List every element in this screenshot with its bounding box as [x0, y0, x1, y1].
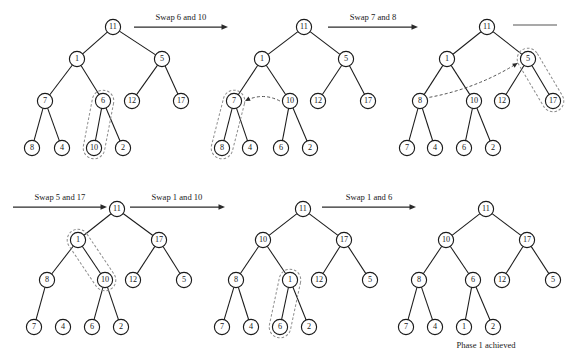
- node-label: 1: [75, 54, 79, 63]
- tree-node-6[interactable]: 6: [456, 140, 471, 155]
- tree-node-12[interactable]: 12: [494, 272, 509, 287]
- tree-edge: [477, 108, 490, 141]
- node-label: 8: [30, 143, 34, 152]
- tree-edge: [136, 65, 157, 95]
- tree-node-6[interactable]: 6: [465, 272, 480, 287]
- node-label: 4: [60, 143, 64, 152]
- tree-node-10[interactable]: 10: [282, 93, 297, 108]
- node-label: 1: [76, 235, 80, 244]
- node-label: 10: [90, 143, 98, 152]
- tree-edge: [506, 65, 524, 94]
- node-label: 12: [498, 275, 506, 284]
- node-label: 7: [220, 322, 224, 331]
- tree-node-11[interactable]: 11: [109, 201, 124, 216]
- tree-node-8[interactable]: 8: [39, 272, 54, 287]
- tree-node-8[interactable]: 8: [214, 140, 229, 155]
- tree-node-5[interactable]: 5: [176, 272, 191, 287]
- tree-node-4[interactable]: 4: [54, 140, 69, 155]
- tree-node-1[interactable]: 1: [282, 272, 297, 287]
- tree-node-7[interactable]: 7: [26, 319, 41, 334]
- tree-node-2[interactable]: 2: [301, 319, 316, 334]
- tree-node-8[interactable]: 8: [228, 272, 243, 287]
- tree-node-10[interactable]: 10: [97, 272, 112, 287]
- tree-node-17[interactable]: 17: [151, 232, 166, 247]
- tree-node-7[interactable]: 7: [398, 319, 413, 334]
- tree-edge: [137, 246, 155, 273]
- tree-node-1[interactable]: 1: [439, 51, 454, 66]
- node-label: 12: [315, 275, 323, 284]
- tree-node-12[interactable]: 12: [311, 272, 326, 287]
- tree-node-17[interactable]: 17: [360, 93, 375, 108]
- tree-node-8[interactable]: 8: [24, 140, 39, 155]
- tree-edge: [422, 108, 432, 141]
- tree-node-17[interactable]: 17: [519, 232, 534, 247]
- tree-node-10[interactable]: 10: [466, 93, 481, 108]
- node-label: 10: [286, 96, 294, 105]
- tree-edge: [94, 287, 103, 319]
- tree-node-4[interactable]: 4: [55, 319, 70, 334]
- tree-node-5[interactable]: 5: [545, 272, 560, 287]
- node-label: 12: [498, 96, 506, 105]
- tree-node-7[interactable]: 7: [399, 140, 414, 155]
- node-label: 7: [405, 143, 409, 152]
- tree-node-8[interactable]: 8: [412, 93, 427, 108]
- tree-node-4[interactable]: 4: [243, 319, 258, 334]
- tree-edge: [409, 108, 418, 140]
- tree-node-1[interactable]: 1: [456, 319, 471, 334]
- tree-node-1[interactable]: 1: [70, 232, 85, 247]
- tree-node-17[interactable]: 17: [173, 93, 188, 108]
- node-label: 4: [61, 322, 65, 331]
- tree-node-10[interactable]: 10: [86, 140, 101, 155]
- tree-node-2[interactable]: 2: [485, 140, 500, 155]
- tree-node-12[interactable]: 12: [125, 272, 140, 287]
- node-label: 1: [462, 322, 466, 331]
- tree-node-4[interactable]: 4: [427, 319, 442, 334]
- tree-node-11[interactable]: 11: [296, 19, 311, 34]
- tree-node-11[interactable]: 11: [105, 19, 120, 34]
- tree-step-4-nodes: 111178101257462: [26, 201, 191, 334]
- tree-edge: [506, 246, 523, 273]
- tree-node-6[interactable]: 6: [84, 319, 99, 334]
- tree-node-6[interactable]: 6: [95, 93, 110, 108]
- tree-node-5[interactable]: 5: [520, 51, 535, 66]
- tree-node-12[interactable]: 12: [124, 93, 139, 108]
- tree-node-7[interactable]: 7: [214, 319, 229, 334]
- tree-node-4[interactable]: 4: [427, 140, 442, 155]
- tree-node-11[interactable]: 11: [295, 201, 310, 216]
- node-label: 10: [101, 275, 109, 284]
- tree-node-2[interactable]: 2: [113, 319, 128, 334]
- tree-node-5[interactable]: 5: [154, 51, 169, 66]
- tree-edge: [424, 65, 443, 94]
- tree-node-2[interactable]: 2: [302, 140, 317, 155]
- tree-node-17[interactable]: 17: [545, 93, 560, 108]
- swap-arrow-label: Swap 1 and 6: [346, 192, 393, 202]
- tree-node-1[interactable]: 1: [254, 51, 269, 66]
- tree-node-1[interactable]: 1: [69, 51, 84, 66]
- node-label: 11: [113, 204, 121, 213]
- tree-edge: [282, 108, 288, 140]
- tree-node-6[interactable]: 6: [273, 140, 288, 155]
- tree-node-2[interactable]: 2: [115, 140, 130, 155]
- tree-node-17[interactable]: 17: [336, 232, 351, 247]
- tree-node-11[interactable]: 11: [479, 19, 494, 34]
- swap-pointer-arrowhead: [245, 97, 251, 101]
- tree-node-12[interactable]: 12: [310, 93, 325, 108]
- tree-edge: [81, 65, 99, 94]
- tree-node-11[interactable]: 11: [478, 201, 493, 216]
- tree-node-10[interactable]: 10: [438, 232, 453, 247]
- tree-node-7[interactable]: 7: [37, 93, 52, 108]
- tree-node-12[interactable]: 12: [494, 93, 509, 108]
- swap-arrow-head: [412, 24, 419, 30]
- tree-node-2[interactable]: 2: [485, 319, 500, 334]
- figure-caption: Phase 1 achieved: [456, 340, 516, 350]
- tree-edge: [123, 214, 153, 236]
- tree-node-8[interactable]: 8: [411, 272, 426, 287]
- tree-node-5[interactable]: 5: [338, 51, 353, 66]
- tree-node-4[interactable]: 4: [242, 140, 257, 155]
- tree-node-10[interactable]: 10: [255, 232, 270, 247]
- tree-node-5[interactable]: 5: [362, 272, 377, 287]
- node-label: 4: [433, 143, 437, 152]
- swap-arrow-5-and-17: Swap 5 and 17: [13, 192, 107, 210]
- tree-node-7[interactable]: 7: [226, 93, 241, 108]
- tree-node-6[interactable]: 6: [272, 319, 287, 334]
